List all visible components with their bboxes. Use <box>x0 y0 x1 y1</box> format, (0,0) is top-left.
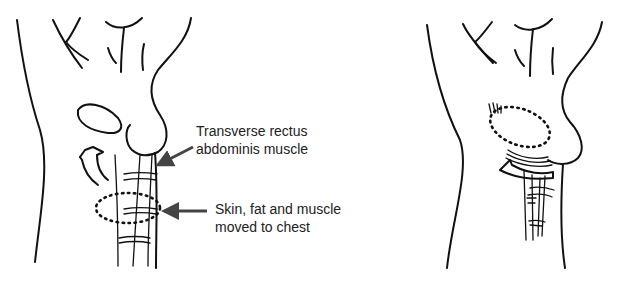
label-line: moved to chest <box>215 218 341 236</box>
label-skin-fat-muscle: Skin, fat and muscle moved to chest <box>215 200 341 236</box>
label-transverse-rectus-abdominis: Transverse rectus abdominis muscle <box>196 122 308 158</box>
right-torso-panel <box>427 19 602 268</box>
label-line: abdominis muscle <box>196 140 308 158</box>
label-line: Transverse rectus <box>196 122 308 140</box>
label-line: Skin, fat and muscle <box>215 200 341 218</box>
left-torso-panel <box>17 18 207 268</box>
tram-flap-diagram <box>0 0 618 289</box>
